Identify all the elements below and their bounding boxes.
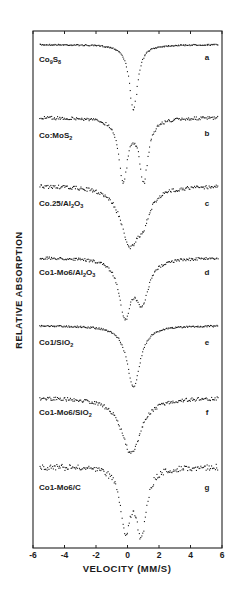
x-tick-label: 4 xyxy=(188,550,193,560)
spectrum-label-g: Co1-Mo6/C xyxy=(39,483,81,492)
spectrum-d xyxy=(40,257,219,321)
spectrum-label-f: Co1-Mo6/SiO2 xyxy=(39,408,92,418)
spectrum-tag-f: f xyxy=(206,408,209,417)
spectra xyxy=(39,44,219,540)
x-tick-label: -4 xyxy=(61,550,69,560)
x-tick-label: 0 xyxy=(125,550,130,560)
y-axis-label: RELATIVE ABSORPTION xyxy=(14,231,24,348)
spectrum-label-d: Co1-Mo6/Al2O3 xyxy=(39,268,95,278)
x-tick-label: 2 xyxy=(157,550,162,560)
spectrum-tag-c: c xyxy=(205,199,210,208)
spectrum-tag-g: g xyxy=(205,483,210,492)
x-tick-label: 6 xyxy=(220,550,225,560)
spectrum-b xyxy=(39,116,218,184)
x-axis-ticks xyxy=(33,31,222,548)
spectrum-tag-b: b xyxy=(205,129,210,138)
plot-frame xyxy=(33,31,222,548)
spectrum-label-c: Co.25/Al2O3 xyxy=(39,199,83,209)
spectrum-tag-d: d xyxy=(205,268,210,277)
mossbauer-chart: -6-4-20246 Co9S8aCo:MoS2bCo.25/Al2O3cCo1… xyxy=(0,0,237,596)
x-axis-tick-labels: -6-4-20246 xyxy=(29,550,224,560)
spectrum-label-a: Co9S8 xyxy=(39,55,61,65)
spectrum-c xyxy=(39,184,218,249)
spectrum-label-e: Co1/SiO2 xyxy=(39,338,73,348)
x-tick-label: -6 xyxy=(29,550,37,560)
spectrum-e xyxy=(39,325,218,388)
x-axis-label: VELOCITY (MM/S) xyxy=(83,563,172,574)
spectrum-tag-a: a xyxy=(205,53,210,62)
spectrum-g xyxy=(40,464,219,540)
spectrum-a xyxy=(40,44,219,111)
spectrum-f xyxy=(39,396,218,454)
x-tick-label: -2 xyxy=(92,550,100,560)
spectrum-label-b: Co:MoS2 xyxy=(39,131,72,141)
spectrum-tag-e: e xyxy=(205,338,210,347)
frame-rect xyxy=(33,31,222,548)
